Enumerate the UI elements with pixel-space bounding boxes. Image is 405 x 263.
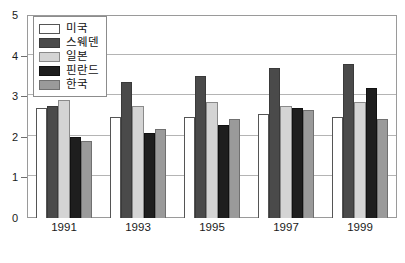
bar bbox=[144, 133, 155, 218]
bar bbox=[292, 108, 303, 218]
bar bbox=[36, 108, 47, 218]
legend-item[interactable]: 미국 bbox=[39, 22, 99, 35]
legend-swatch-icon bbox=[39, 66, 60, 76]
bar bbox=[206, 102, 217, 218]
bar bbox=[110, 117, 121, 219]
bar bbox=[366, 88, 377, 218]
bar bbox=[47, 106, 58, 218]
legend-item-label: 한국 bbox=[66, 79, 88, 91]
y-axis-tick-label: 3 bbox=[12, 91, 18, 102]
bar bbox=[229, 119, 240, 218]
bar bbox=[155, 129, 166, 218]
y-axis: 012345 bbox=[0, 0, 27, 263]
bar bbox=[258, 114, 269, 218]
y-axis-tick-label: 5 bbox=[12, 10, 18, 21]
legend-swatch-icon bbox=[39, 80, 60, 90]
bar bbox=[377, 119, 388, 218]
bar bbox=[81, 141, 92, 218]
bar-chart: 012345 19911993199519971999 미국스웨덴일본핀란드한국 bbox=[0, 0, 405, 263]
x-axis-tick-label: 1991 bbox=[51, 222, 77, 234]
bar bbox=[343, 64, 354, 218]
legend-item-label: 스웨덴 bbox=[66, 37, 99, 49]
y-axis-tick-label: 0 bbox=[12, 213, 18, 224]
bar bbox=[280, 106, 291, 218]
bar bbox=[184, 117, 195, 219]
x-axis-tick-label: 1995 bbox=[199, 222, 225, 234]
bar-group bbox=[323, 15, 397, 218]
y-axis-tick-label: 4 bbox=[12, 50, 18, 61]
bar bbox=[58, 100, 69, 218]
bar bbox=[269, 68, 280, 218]
legend-swatch-icon bbox=[39, 38, 60, 48]
bar bbox=[70, 137, 81, 218]
x-axis-tick-label: 1993 bbox=[125, 222, 151, 234]
legend-item-label: 핀란드 bbox=[66, 65, 99, 77]
bar-group bbox=[249, 15, 323, 218]
x-axis: 19911993199519971999 bbox=[27, 222, 397, 242]
bar bbox=[195, 76, 206, 218]
bar-group bbox=[101, 15, 175, 218]
legend-swatch-icon bbox=[39, 24, 60, 34]
x-axis-tick-label: 1999 bbox=[347, 222, 373, 234]
y-axis-tick-label: 2 bbox=[12, 131, 18, 142]
legend-item[interactable]: 스웨덴 bbox=[39, 36, 99, 49]
bar bbox=[121, 82, 132, 218]
legend-item[interactable]: 일본 bbox=[39, 50, 99, 63]
legend-item-label: 일본 bbox=[66, 51, 88, 63]
legend-item[interactable]: 한국 bbox=[39, 78, 99, 91]
bar bbox=[218, 125, 229, 218]
legend-item-label: 미국 bbox=[66, 23, 88, 35]
bar bbox=[332, 117, 343, 219]
bar bbox=[132, 106, 143, 218]
bar-group bbox=[175, 15, 249, 218]
chart-legend: 미국스웨덴일본핀란드한국 bbox=[33, 16, 107, 97]
legend-swatch-icon bbox=[39, 52, 60, 62]
x-axis-tick-label: 1997 bbox=[273, 222, 299, 234]
legend-item[interactable]: 핀란드 bbox=[39, 64, 99, 77]
bar bbox=[303, 110, 314, 218]
bar bbox=[354, 102, 365, 218]
y-axis-tick-label: 1 bbox=[12, 172, 18, 183]
